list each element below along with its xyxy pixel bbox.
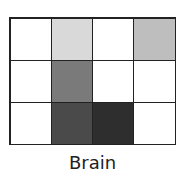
- grid-cell: [92, 18, 134, 61]
- grid-cell: [10, 18, 52, 61]
- grid-cell: [92, 102, 134, 145]
- grid-cell: [133, 60, 175, 103]
- grid-cell: [51, 102, 93, 145]
- grid-cell: [10, 60, 52, 103]
- grid-cell: [92, 60, 134, 103]
- heatmap-grid: [9, 17, 176, 145]
- grid-cell: [133, 18, 175, 61]
- grid-label: Brain: [0, 152, 185, 173]
- grid-cell: [51, 60, 93, 103]
- grid-cell: [51, 18, 93, 61]
- grid-cell: [133, 102, 175, 145]
- grid-cell: [10, 102, 52, 145]
